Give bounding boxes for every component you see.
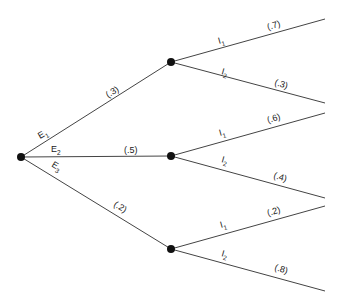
branch-e3-i2 [171,249,325,291]
prob-e1-i2: (.3) [273,77,289,90]
prob-e3-i1: (.2) [266,205,282,218]
prob-e2: (.5) [124,145,138,155]
prob-e2-i1: (.6) [266,112,282,125]
label-e3-i1: I1 [219,219,229,232]
branch-e2-i2 [171,156,325,198]
branch-e3-i1 [171,206,325,249]
label-e3: E3 [49,159,64,174]
branch-e1-i2 [171,62,325,103]
branch-e3 [21,157,171,249]
label-e1-i1: I1 [217,35,227,48]
tree-svg: E1 E2 E3 (.3) (.5) (.2) I1 (.7) I2 (.3) … [0,0,344,301]
node-e3 [167,245,175,253]
root-node [17,153,25,161]
node-e2 [167,152,175,160]
label-e3-i2: I2 [220,248,230,261]
prob-e1-i1: (.7) [266,19,282,32]
label-e2-i1: I1 [218,127,228,140]
prob-e3: (.2) [112,199,129,215]
branch-e1-i1 [171,19,325,62]
label-e2-i2: I2 [220,154,230,167]
prob-e1: (.3) [104,84,121,100]
prob-e2-i2: (.4) [272,170,288,183]
label-e2: E2 [51,144,61,156]
branch-e2 [21,156,171,157]
prob-e3-i2: (.8) [273,262,289,275]
probability-tree-diagram: E1 E2 E3 (.3) (.5) (.2) I1 (.7) I2 (.3) … [0,0,344,301]
branch-e2-i1 [171,113,325,156]
branch-e1 [21,62,171,157]
node-e1 [167,58,175,66]
